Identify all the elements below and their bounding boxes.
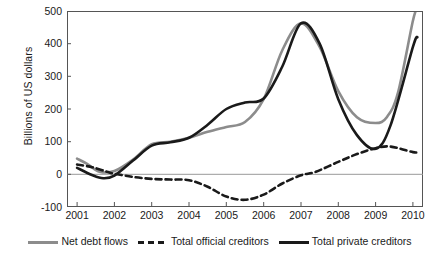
line-solid-gray-icon [28, 236, 58, 246]
y-tick-label: 0 [28, 169, 62, 179]
x-tick-label: 2005 [206, 210, 246, 221]
legend-label: Total official creditors [171, 235, 269, 247]
y-tick-label: 500 [28, 6, 62, 16]
x-tick-label: 2007 [281, 210, 321, 221]
x-axis-tick-labels: 2001200220032004200520062007200820092010 [0, 210, 440, 226]
legend-item-total-official-creditors[interactable]: Total official creditors [138, 235, 269, 247]
plot-svg [67, 11, 423, 207]
line-dashed-black-icon [138, 236, 168, 246]
x-tick-label: 2002 [94, 210, 134, 221]
plot-area [67, 11, 423, 207]
line-solid-black-icon [279, 236, 309, 246]
legend-item-net-debt-flows[interactable]: Net debt flows [28, 235, 128, 247]
x-tick-label: 2008 [318, 210, 358, 221]
chart-container: Billions of US dollars 5004003002001000-… [0, 0, 440, 257]
y-tick-label: 100 [28, 136, 62, 146]
x-tick-label: 2010 [393, 210, 433, 221]
legend-item-total-private-creditors[interactable]: Total private creditors [279, 235, 412, 247]
legend-label: Total private creditors [312, 235, 412, 247]
chart-legend: Net debt flows Total official creditors … [0, 231, 440, 251]
legend-label: Net debt flows [61, 235, 128, 247]
y-tick-label: 200 [28, 104, 62, 114]
y-tick-label: 300 [28, 71, 62, 81]
x-tick-label: 2006 [244, 210, 284, 221]
x-tick-label: 2003 [132, 210, 172, 221]
x-tick-label: 2009 [356, 210, 396, 221]
y-tick-label: 400 [28, 38, 62, 48]
x-tick-label: 2004 [169, 210, 209, 221]
plot-frame [68, 12, 423, 207]
x-tick-label: 2001 [57, 210, 97, 221]
